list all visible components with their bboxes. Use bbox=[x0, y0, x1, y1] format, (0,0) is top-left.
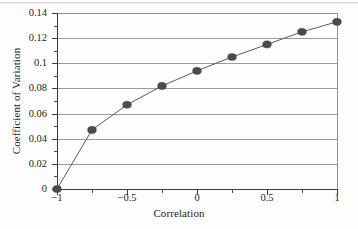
y-tick-label: 0.02 bbox=[29, 159, 47, 169]
y-tick-label: 0.04 bbox=[29, 134, 47, 144]
x-axis-title: Correlation bbox=[0, 207, 358, 219]
y-tick-label: 0.1 bbox=[34, 58, 47, 68]
y-tick-label: 0.08 bbox=[29, 83, 47, 93]
scan-artifact-line-secondary bbox=[0, 3, 358, 4]
data-point-marker bbox=[298, 28, 307, 35]
x-tick-label: −0.5 bbox=[117, 192, 136, 203]
data-point-marker bbox=[333, 18, 342, 25]
y-tick-label: 0.14 bbox=[29, 8, 47, 18]
x-tick-label: 0 bbox=[194, 192, 199, 203]
x-tick-label: −1 bbox=[51, 192, 62, 203]
data-point-marker bbox=[263, 41, 272, 48]
data-point-marker bbox=[228, 53, 237, 60]
x-tick-label: 1 bbox=[334, 192, 339, 203]
data-series bbox=[57, 13, 338, 190]
y-tick-label: 0.06 bbox=[29, 109, 47, 119]
data-point-marker bbox=[123, 101, 132, 108]
data-point-marker bbox=[158, 82, 167, 89]
data-point-marker bbox=[53, 185, 62, 192]
x-tick-label: 0.5 bbox=[260, 192, 273, 203]
series-markers bbox=[53, 18, 342, 192]
series-line bbox=[57, 22, 337, 189]
y-tick-label: 0.12 bbox=[29, 33, 47, 43]
chart-figure: 00.020.040.060.080.10.120.14 −1−0.500.51… bbox=[0, 0, 358, 229]
data-point-marker bbox=[88, 126, 97, 133]
data-point-marker bbox=[193, 67, 202, 74]
y-axis-title: Coefficient of Variation bbox=[10, 13, 22, 189]
y-tick-label: 0 bbox=[42, 184, 47, 194]
